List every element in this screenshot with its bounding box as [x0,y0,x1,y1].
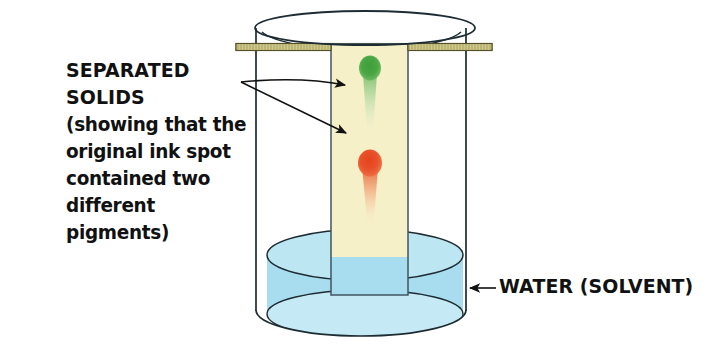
separated-solids-line-4: different pigments) [66,192,260,246]
water-solvent-label: WATER (SOLVENT) [499,277,693,297]
support-rod-right-segment [408,44,492,51]
separated-solids-line-2: original ink spot [66,138,260,165]
orange-pigment-blob [358,150,382,177]
separated-solids-line-3: contained two [66,165,260,192]
paper-strip-submerged [331,257,408,295]
separated-solids-heading: SEPARATED SOLIDS [66,57,260,111]
support-rod-left-segment [236,44,331,51]
separated-solids-label: SEPARATED SOLIDS (showing that the origi… [66,57,266,246]
diagram-canvas: SEPARATED SOLIDS (showing that the origi… [0,0,713,359]
separated-solids-line-1: (showing that the [66,111,260,138]
green-pigment-blob [359,56,381,81]
